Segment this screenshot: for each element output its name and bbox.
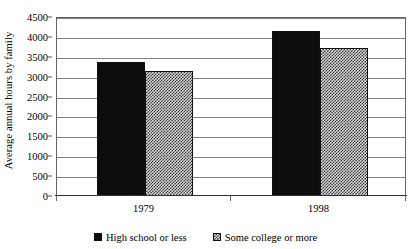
chart-legend: High school or lessSome college or more: [0, 228, 411, 246]
y-axis-tick-label: 1500: [27, 131, 48, 142]
legend-swatch-icon: [213, 233, 221, 241]
y-axis-tick-label: 4500: [27, 12, 48, 23]
y-axis-tick-mark: [48, 176, 52, 177]
legend-item[interactable]: Some college or more: [213, 232, 317, 243]
y-axis-tick-label: 500: [32, 171, 48, 182]
bar[interactable]: [320, 48, 368, 196]
legend-item-label: High school or less: [106, 232, 187, 243]
y-axis-tick-label: 3000: [27, 71, 48, 82]
y-axis-tick-mark: [48, 196, 52, 197]
plot-area: [56, 17, 406, 196]
legend-swatch-icon: [94, 233, 102, 241]
y-axis-tick-mark: [48, 76, 52, 77]
y-axis-tick-label: 4000: [27, 31, 48, 42]
bar-chart: Average annual hours by family 050010001…: [0, 0, 411, 249]
bar[interactable]: [97, 62, 145, 196]
x-axis-tick-divider: [230, 196, 231, 201]
y-axis-tick-mark: [48, 96, 52, 97]
y-axis-tick-mark: [48, 17, 52, 18]
y-axis-title-label: Average annual hours by family: [4, 31, 15, 169]
x-axis-baseline: [55, 195, 407, 196]
y-axis-tick-labels: 050010001500200025003000350040004500: [18, 17, 52, 196]
y-axis-tick-mark: [48, 56, 52, 57]
y-axis-tick-mark: [48, 136, 52, 137]
legend-item[interactable]: High school or less: [94, 232, 187, 243]
y-axis-tick-label: 2500: [27, 91, 48, 102]
bars-layer: [57, 18, 405, 196]
y-axis-tick-mark: [48, 156, 52, 157]
bar[interactable]: [145, 71, 193, 196]
y-axis-tick-label: 3500: [27, 51, 48, 62]
x-axis-tick-label: 1998: [308, 203, 329, 214]
y-axis-title: Average annual hours by family: [0, 0, 18, 200]
y-axis-tick-mark: [48, 116, 52, 117]
x-axis-tick-labels: 19791998: [56, 203, 406, 219]
x-axis-tick-label: 1979: [133, 203, 154, 214]
y-axis-tick-label: 1000: [27, 151, 48, 162]
x-axis-tick-right: [405, 196, 406, 201]
y-axis-tick-mark: [48, 36, 52, 37]
legend-item-label: Some college or more: [225, 232, 317, 243]
bar[interactable]: [272, 31, 320, 196]
y-axis-tick-label: 2000: [27, 111, 48, 122]
x-axis-tick-left: [56, 196, 57, 201]
